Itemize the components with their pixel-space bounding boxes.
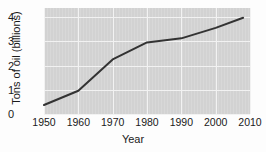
x-axis-label: Year xyxy=(0,133,266,145)
x-tick-label: 2010 xyxy=(230,117,266,128)
gridline-vertical xyxy=(250,8,251,114)
data-line-tons-of-oil xyxy=(44,18,243,105)
plot-area xyxy=(44,8,250,114)
y-axis-label: Tons of oil (billions) xyxy=(10,0,22,118)
line-chart: 01234 1950196019701980199020002010 Year … xyxy=(0,0,266,152)
gridline-horizontal xyxy=(44,114,250,115)
data-series-layer xyxy=(44,8,250,114)
